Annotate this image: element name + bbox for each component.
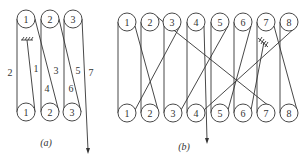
top-pulley-a2: 2	[41, 10, 59, 28]
top-pulley-b5: 5	[211, 13, 229, 31]
svg-text:5: 5	[218, 17, 223, 28]
top-pulley-a3: 3	[64, 10, 82, 28]
svg-text:7: 7	[264, 17, 269, 28]
caption-a: (a)	[40, 137, 52, 149]
svg-text:3: 3	[170, 17, 175, 28]
top-pulley-b7: 7	[257, 13, 275, 31]
bottom-pulley-a2: 2	[41, 103, 59, 121]
svg-text:6: 6	[241, 17, 246, 28]
top-pulley-b6: 6	[234, 13, 252, 31]
svg-text:2: 2	[148, 17, 153, 28]
top-pulley-b2: 2	[141, 13, 159, 31]
diagram-a: 1 2 3 1 2 3 1 2 3 4 5 6 7 (a)	[8, 10, 94, 154]
svg-text:4: 4	[194, 108, 199, 119]
top-pulley-b8: 8	[280, 13, 298, 31]
svg-text:2: 2	[148, 108, 153, 119]
svg-text:2: 2	[48, 107, 53, 118]
top-pulley-b4: 4	[187, 13, 205, 31]
svg-text:1: 1	[125, 108, 130, 119]
top-pulley-b3: 3	[163, 13, 181, 31]
svg-text:3: 3	[71, 14, 76, 25]
svg-text:2: 2	[48, 14, 53, 25]
svg-text:1: 1	[24, 107, 29, 118]
bottom-pulley-b1: 1	[118, 104, 136, 122]
svg-text:8: 8	[287, 108, 292, 119]
bottom-pulley-b4: 4	[187, 104, 205, 122]
segment-label-5: 5	[76, 65, 81, 76]
svg-text:6: 6	[241, 108, 246, 119]
caption-b: (b)	[178, 141, 190, 153]
bottom-pulley-b2: 2	[141, 104, 159, 122]
svg-text:4: 4	[194, 17, 199, 28]
svg-text:1: 1	[125, 17, 130, 28]
segment-label-4: 4	[45, 83, 50, 94]
segment-label-2: 2	[8, 67, 13, 78]
svg-text:5: 5	[218, 108, 223, 119]
bottom-pulley-b7: 7	[257, 104, 275, 122]
segment-label-7: 7	[89, 67, 94, 78]
segment-label-3: 3	[54, 65, 59, 76]
segment-label-6: 6	[69, 83, 74, 94]
svg-text:1: 1	[24, 14, 29, 25]
bottom-pulley-b3: 3	[164, 104, 182, 122]
bottom-pulley-a3: 3	[63, 103, 81, 121]
diagram-b: 1 2 3 4 5 6 7 8 1 2 3 4 5 6 7 8 (b)	[118, 13, 298, 153]
bottom-pulley-b8: 8	[280, 104, 298, 122]
top-pulley-b1: 1	[118, 13, 136, 31]
bottom-pulley-b6: 6	[234, 104, 252, 122]
svg-text:7: 7	[264, 108, 269, 119]
svg-text:3: 3	[70, 107, 75, 118]
bottom-pulley-a1: 1	[17, 103, 35, 121]
top-pulley-a1: 1	[17, 10, 35, 28]
svg-text:3: 3	[171, 108, 176, 119]
belt-threading-diagram: 1 2 3 1 2 3 1 2 3 4 5 6 7 (a)	[0, 0, 303, 159]
anchor-hatch-icon	[21, 37, 33, 40]
svg-text:8: 8	[287, 17, 292, 28]
segment-label-1: 1	[34, 63, 39, 74]
bottom-pulley-b5: 5	[211, 104, 229, 122]
